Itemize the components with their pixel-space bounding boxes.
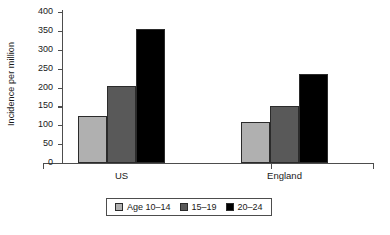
- legend-swatch-icon: [180, 203, 188, 211]
- x-axis-tick-mark: [373, 164, 374, 169]
- x-axis-group-label-england: England: [245, 170, 325, 181]
- chart-legend: Age 10–1415–1920–24: [106, 198, 272, 216]
- plot-area: [63, 12, 373, 163]
- x-axis-line: [43, 163, 374, 164]
- y-axis-title: Incidence per million: [2, 0, 20, 168]
- y-axis-tick-label: 200: [38, 82, 53, 92]
- x-axis-group-label-us: US: [82, 170, 162, 181]
- y-axis-tick-label: 300: [38, 44, 53, 54]
- bar: [136, 29, 165, 163]
- legend-label: Age 10–14: [127, 202, 171, 212]
- legend-item: 20–24: [226, 202, 263, 212]
- y-axis-tick-label: 250: [38, 63, 53, 73]
- y-axis-tick-label: 350: [38, 25, 53, 35]
- y-axis-title-text: Incidence per million: [6, 42, 16, 126]
- y-axis-tick-label: 0: [48, 157, 53, 167]
- bar: [107, 86, 136, 163]
- legend-swatch-icon: [115, 203, 123, 211]
- legend-label: 15–19: [192, 202, 217, 212]
- legend-label: 20–24: [238, 202, 263, 212]
- y-axis-tick-label: 100: [38, 119, 53, 129]
- bar: [78, 116, 107, 163]
- legend-item: Age 10–14: [115, 202, 171, 212]
- legend-swatch-icon: [226, 203, 234, 211]
- bar-group: [78, 12, 165, 163]
- x-axis-tick-mark: [43, 164, 44, 169]
- x-axis-tick-mark: [271, 164, 272, 169]
- bar: [241, 122, 270, 163]
- y-axis-tick-label: 150: [38, 100, 53, 110]
- bar-group: [241, 12, 328, 163]
- bar: [270, 106, 299, 163]
- legend-item: 15–19: [180, 202, 217, 212]
- y-axis-tick-label: 400: [38, 6, 53, 16]
- bar-chart-figure: Incidence per million 400350300250200150…: [0, 0, 390, 235]
- y-axis-tick-label: 50: [43, 138, 53, 148]
- bar: [299, 74, 328, 163]
- y-axis-tick-mark: [58, 163, 63, 164]
